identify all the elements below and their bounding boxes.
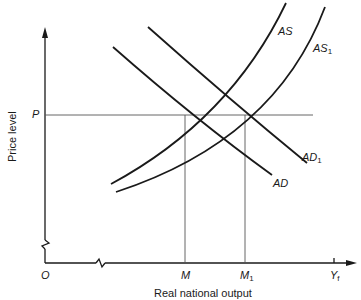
- y-axis-title: Price level: [7, 111, 18, 162]
- p-label-text: P: [32, 108, 39, 120]
- x-axis-title: Real national output: [154, 288, 252, 299]
- yf-label: Yf: [330, 270, 340, 283]
- x-axis-arrow-icon: [346, 260, 357, 266]
- x-axis: [45, 258, 348, 267]
- as-label: AS: [278, 26, 293, 37]
- as-curve: [111, 3, 286, 184]
- ad1-label-sub: 1: [317, 156, 321, 165]
- y-axis-arrow-icon: [42, 27, 48, 38]
- origin-label-text: O: [41, 269, 50, 281]
- origin-label: O: [41, 270, 50, 281]
- ad-label: AD: [273, 178, 288, 189]
- as1-label-sub: 1: [328, 47, 332, 56]
- m-label: M: [181, 270, 190, 281]
- m1-label-sub: 1: [249, 274, 253, 283]
- as1-label-text: AS: [313, 42, 328, 54]
- m1-label: M1: [240, 270, 254, 283]
- as1-label: AS1: [313, 43, 332, 56]
- ad1-label-text: AD: [302, 151, 317, 163]
- p-label: P: [32, 109, 39, 120]
- ad1-label: AD1: [302, 152, 322, 165]
- as-label-text: AS: [278, 25, 293, 37]
- m1-label-text: M: [240, 269, 249, 281]
- yf-label-sub: f: [337, 274, 339, 283]
- m-label-text: M: [181, 269, 190, 281]
- ad-label-text: AD: [273, 177, 288, 189]
- y-axis: [42, 36, 49, 263]
- ad-as-diagram: [0, 0, 361, 300]
- reference-lines: [45, 115, 313, 263]
